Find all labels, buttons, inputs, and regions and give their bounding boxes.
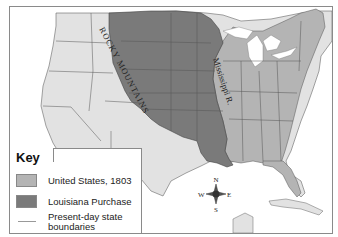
key-item-us-1803	[16, 174, 37, 187]
cuba	[269, 199, 323, 215]
key-label-boundaries-2: boundaries	[48, 222, 95, 232]
louisiana-purchase-swatch	[16, 195, 37, 208]
florida	[263, 161, 301, 197]
us-1803-swatch	[16, 174, 37, 187]
key-label-louisiana-purchase: Louisiana Purchase	[48, 197, 131, 207]
svg-text:S: S	[214, 206, 218, 214]
key-title: Key	[16, 150, 40, 165]
svg-text:N: N	[214, 176, 219, 184]
yucatan	[233, 213, 253, 233]
svg-text:W: W	[198, 191, 205, 199]
key-item-louisiana-purchase	[16, 195, 37, 208]
compass-rose-icon: N S E W	[198, 176, 231, 214]
svg-text:E: E	[227, 191, 231, 199]
map-frame: ROCKY MOUNTAINS Mississippi R. N S E W K…	[9, 6, 333, 234]
state-boundary-line-sample	[18, 221, 36, 222]
key-label-us-1803: United States, 1803	[48, 176, 131, 186]
